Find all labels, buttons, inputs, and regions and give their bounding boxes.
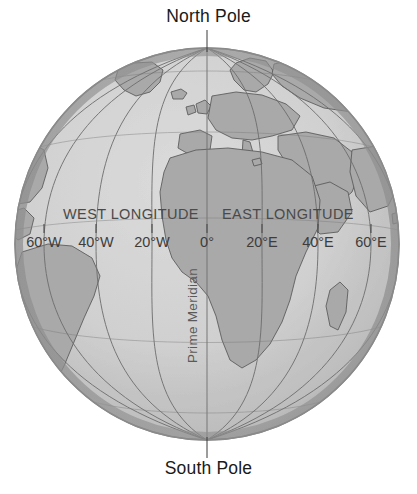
- longitude-tick-label: 40°E: [302, 234, 334, 250]
- longitude-tick-label: 60°W: [26, 234, 62, 250]
- north-pole-label: North Pole: [0, 6, 417, 27]
- east-longitude-label: EAST LONGITUDE: [222, 206, 354, 222]
- west-longitude-label: WEST LONGITUDE: [63, 206, 199, 222]
- longitude-tick-label: 20°W: [134, 234, 170, 250]
- globe-diagram: North Pole South Pole WEST LONGITUDE EAS…: [0, 0, 417, 494]
- sicily-island: [252, 158, 262, 166]
- longitude-tick-label: 40°W: [78, 234, 114, 250]
- longitude-tick-label: 0°: [200, 234, 214, 250]
- prime-meridian-label: Prime Meridian: [185, 268, 200, 363]
- longitude-tick-label: 60°E: [355, 234, 387, 250]
- longitude-tick-label: 20°E: [246, 234, 278, 250]
- south-pole-label: South Pole: [0, 458, 417, 479]
